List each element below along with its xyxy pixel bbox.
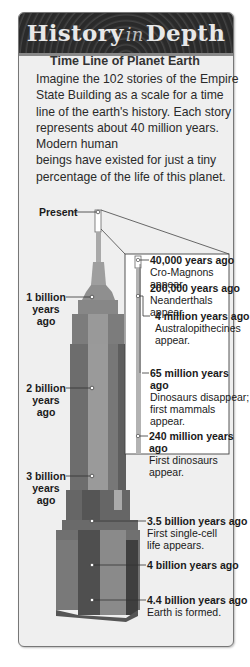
event-australopithecines: 4 million years ago Australopithecines a… <box>155 310 250 346</box>
event-desc: appear. <box>155 334 250 346</box>
label-line: years ago <box>24 394 68 418</box>
left-label-3-billion: 3 billion years ago <box>24 470 68 506</box>
label-line: years ago <box>24 482 68 506</box>
event-first-dinosaurs: 240 million years ago First dinosaurs ap… <box>149 430 250 478</box>
left-label-2-billion: 2 billion years ago <box>24 382 68 418</box>
present-label: Present <box>39 206 78 218</box>
event-earth-formed: 4.4 billion years ago Earth is formed. <box>147 594 247 618</box>
event-time: 3.5 billion years ago <box>147 515 247 527</box>
event-time: 240 million years ago <box>149 430 250 454</box>
event-time: 4.4 billion years ago <box>147 594 247 606</box>
event-desc: first mammals appear. <box>150 403 250 427</box>
event-desc: life appears. <box>147 539 247 551</box>
label-line: years ago <box>24 303 68 327</box>
left-label-1-billion: 1 billion years ago <box>24 291 68 327</box>
event-desc: Earth is formed. <box>147 606 247 618</box>
event-time: 4 billion years ago <box>147 559 239 571</box>
event-desc: Dinosaurs disappear; <box>150 391 250 403</box>
event-desc: First single-cell <box>147 527 247 539</box>
event-desc: Australopithecines <box>155 322 250 334</box>
event-dinosaurs-disappear: 65 million years ago Dinosaurs disappear… <box>150 367 250 427</box>
label-line: 2 billion <box>24 382 68 394</box>
event-time: 4 million years ago <box>155 310 250 322</box>
event-time: 40,000 years ago <box>150 254 250 266</box>
event-4-billion: 4 billion years ago <box>147 559 239 571</box>
event-time: 65 million years ago <box>150 367 250 391</box>
label-line: 3 billion <box>24 470 68 482</box>
event-single-cell-life: 3.5 billion years ago First single-cell … <box>147 515 247 551</box>
event-time: 200,000 years ago <box>150 282 250 294</box>
event-desc: First dinosaurs appear. <box>149 454 250 478</box>
label-line: 1 billion <box>24 291 68 303</box>
